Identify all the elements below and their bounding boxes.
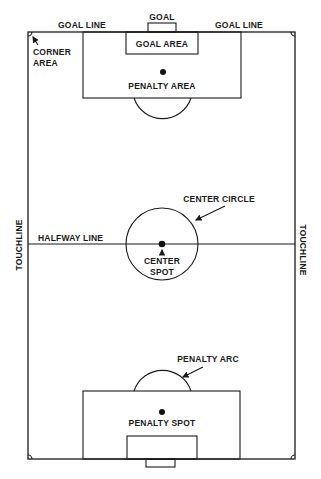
label-penalty-arc: PENALTY ARC [177, 354, 239, 364]
label-touchline-right: TOUCHLINE [298, 224, 308, 275]
label-touchline-left: TOUCHLINE [14, 219, 24, 270]
label-goal-line-left: GOAL LINE [58, 20, 106, 30]
label-center-spot-1: CENTER [144, 256, 180, 266]
center-circle-arrow [196, 206, 225, 220]
penalty-arc-arrow [183, 367, 203, 377]
label-goal-area: GOAL AREA [136, 39, 188, 49]
label-center-spot-2: SPOT [150, 267, 175, 277]
penalty-spot-bottom [159, 409, 165, 415]
label-penalty-spot: PENALTY SPOT [129, 418, 196, 428]
label-corner-area-1: CORNER [33, 47, 71, 57]
goal-top [148, 23, 176, 32]
label-corner-area-2: AREA [33, 58, 58, 68]
label-center-circle: CENTER CIRCLE [183, 194, 255, 204]
goal-bottom [146, 459, 175, 467]
penalty-spot-top [160, 69, 166, 75]
soccer-field-diagram: GOAL GOAL LINE GOAL LINE CORNER AREA GOA… [0, 0, 321, 479]
penalty-arc-bottom [134, 370, 191, 391]
goal-area-bottom [127, 436, 197, 459]
label-goal: GOAL [149, 12, 174, 22]
penalty-arc-top [134, 98, 191, 119]
label-halfway-line: HALFWAY LINE [38, 233, 103, 243]
center-spot [159, 241, 166, 248]
corner-area-arrow [33, 37, 38, 45]
label-goal-line-right: GOAL LINE [215, 20, 263, 30]
label-penalty-area: PENALTY AREA [128, 81, 195, 91]
